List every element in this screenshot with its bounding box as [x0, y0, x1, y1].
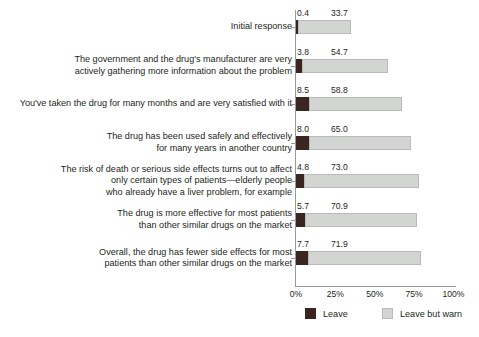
bar-segment-leave-but-warn [309, 136, 411, 150]
y-axis-tickmark [291, 143, 295, 144]
bar-row: Initial response0.433.7 [0, 0, 479, 38]
category-label-line: actively gathering more information abou… [7, 66, 292, 77]
bar-segment-leave-but-warn [305, 213, 417, 227]
category-label-line: The government and the drug's manufactur… [7, 54, 292, 65]
value-label-leave: 4.8 [297, 162, 309, 172]
bar-row: The risk of death or serious side effect… [0, 154, 479, 192]
category-label: Overall, the drug has fewer side effects… [7, 247, 292, 270]
category-label: You've taken the drug for many months an… [7, 98, 292, 109]
value-label-leave-but-warn: 70.9 [331, 201, 348, 211]
stacked-bar [296, 97, 402, 111]
value-label-leave: 5.7 [297, 201, 309, 211]
value-label-leave: 0.4 [297, 8, 309, 18]
category-label-line: The risk of death or serious side effect… [7, 164, 292, 175]
category-label: The drug is more effective for most pati… [7, 208, 292, 231]
category-label-line: patients than other similar drugs on the… [7, 258, 292, 269]
x-tick-label: 100% [443, 289, 465, 299]
category-label: Initial response [7, 21, 292, 32]
stacked-bar [296, 251, 421, 265]
bar-row: The government and the drug's manufactur… [0, 39, 479, 77]
y-axis-tickmark [291, 258, 295, 259]
value-label-leave: 3.8 [297, 47, 309, 57]
y-axis-tickmark [291, 220, 295, 221]
y-axis-tickmark [291, 104, 295, 105]
bar-segment-leave-but-warn [304, 174, 419, 188]
value-label-leave-but-warn: 54.7 [331, 47, 348, 57]
x-axis-line [295, 286, 456, 287]
legend-swatch-icon [382, 308, 393, 319]
y-axis-tickmark [291, 27, 295, 28]
bar-row: The drug is more effective for most pati… [0, 193, 479, 231]
bar-row: The drug has been used safely and effect… [0, 116, 479, 154]
legend-item[interactable]: Leave [305, 308, 348, 319]
category-label: The government and the drug's manufactur… [7, 54, 292, 77]
x-tick-label: 25% [327, 289, 344, 299]
value-label-leave: 8.0 [297, 124, 309, 134]
bar-row: You've taken the drug for many months an… [0, 77, 479, 115]
category-label-line: Overall, the drug has fewer side effects… [7, 247, 292, 258]
value-label-leave: 8.5 [297, 85, 309, 95]
stacked-bar [296, 174, 419, 188]
category-label-line: for many years in another country [7, 143, 292, 154]
value-label-leave: 7.7 [297, 239, 309, 249]
y-axis-tickmark [291, 181, 295, 182]
bar-segment-leave-but-warn [298, 20, 351, 34]
x-tick-label: 0% [290, 289, 302, 299]
bar-segment-leave [296, 251, 308, 265]
legend-label: Leave but warn [400, 309, 462, 319]
bar-segment-leave [296, 174, 304, 188]
bar-segment-leave [296, 97, 309, 111]
x-tick-label: 50% [366, 289, 383, 299]
value-label-leave-but-warn: 71.9 [331, 239, 348, 249]
bar-segment-leave-but-warn [302, 59, 388, 73]
category-label-line: The drug is more effective for most pati… [7, 208, 292, 219]
stacked-bar-chart: Initial response0.433.7The government an… [0, 0, 479, 337]
x-tick-label: 75% [406, 289, 423, 299]
category-label-line: Initial response [7, 21, 292, 32]
bar-segment-leave-but-warn [308, 251, 421, 265]
category-label-line: than other similar drugs on the market [7, 220, 292, 231]
stacked-bar [296, 136, 411, 150]
category-label-line: You've taken the drug for many months an… [7, 98, 292, 109]
stacked-bar [296, 213, 417, 227]
legend-swatch-icon [305, 308, 316, 319]
plot-area: Initial response0.433.7The government an… [0, 0, 479, 337]
bar-row: Overall, the drug has fewer side effects… [0, 231, 479, 269]
bar-segment-leave [296, 213, 305, 227]
value-label-leave-but-warn: 58.8 [331, 85, 348, 95]
stacked-bar [296, 20, 351, 34]
y-axis-tickmark [291, 66, 295, 67]
category-label-line: only certain types of patients—elderly p… [7, 175, 292, 186]
legend-item[interactable]: Leave but warn [382, 308, 462, 319]
bar-segment-leave-but-warn [309, 97, 402, 111]
legend-label: Leave [323, 309, 348, 319]
value-label-leave-but-warn: 65.0 [331, 124, 348, 134]
bar-segment-leave [296, 136, 309, 150]
value-label-leave-but-warn: 73.0 [331, 162, 348, 172]
value-label-leave-but-warn: 33.7 [331, 8, 348, 18]
chart-legend: LeaveLeave but warn [0, 308, 479, 328]
stacked-bar [296, 59, 388, 73]
category-label-line: The drug has been used safely and effect… [7, 131, 292, 142]
category-label: The drug has been used safely and effect… [7, 131, 292, 154]
